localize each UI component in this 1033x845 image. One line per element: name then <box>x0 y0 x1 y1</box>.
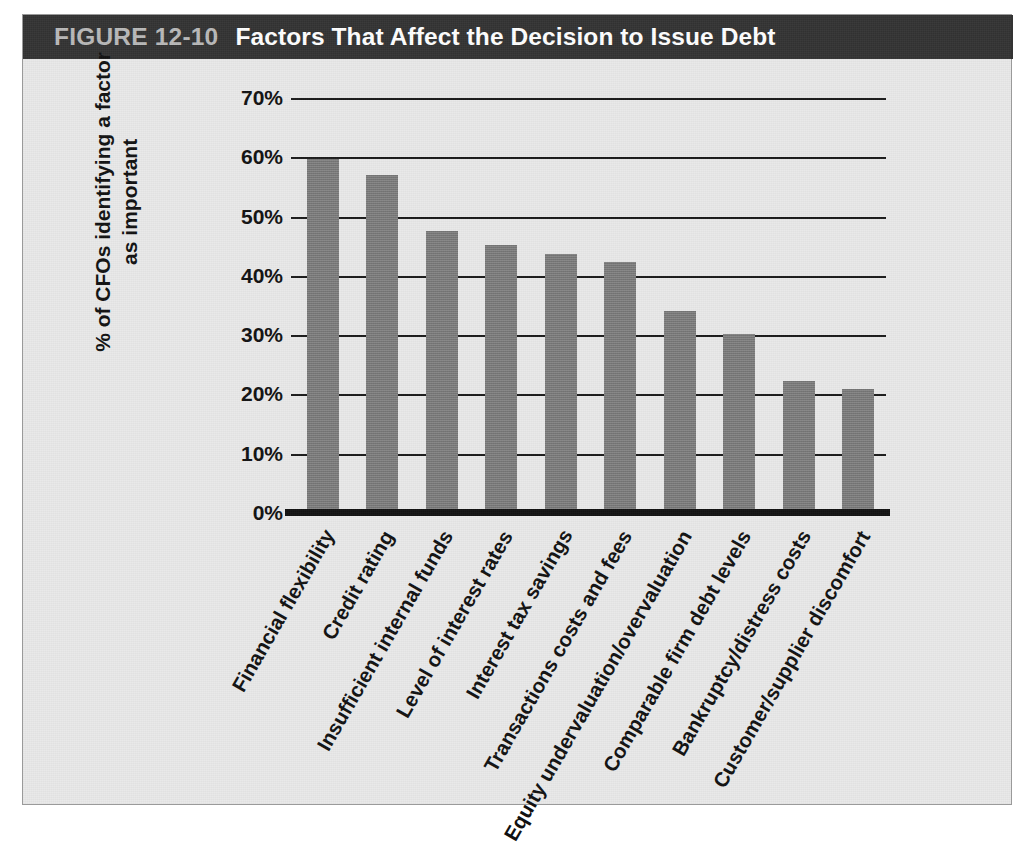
bar <box>664 311 696 513</box>
bar <box>604 262 636 513</box>
y-axis-title: % of CFOs identifying a factor as import… <box>90 52 144 352</box>
bar <box>842 389 874 514</box>
y-axis-title-line2: as important <box>117 52 144 352</box>
y-tick-label: 40% <box>203 264 283 288</box>
y-axis-title-line1: % of CFOs identifying a factor <box>90 52 117 352</box>
y-tick-label: 10% <box>203 442 283 466</box>
figure-title-label: Factors That Affect the Decision to Issu… <box>235 23 775 51</box>
bar <box>545 254 577 513</box>
x-tick-label: Interest tax savings <box>461 526 577 704</box>
y-tick-label: 70% <box>203 86 283 110</box>
y-tick-label: 0% <box>203 501 283 525</box>
y-tick-label: 20% <box>203 382 283 406</box>
bar <box>426 231 458 513</box>
figure-container: FIGURE 12-10 Factors That Affect the Dec… <box>22 14 1012 805</box>
bar <box>485 245 517 513</box>
bar-series <box>291 98 886 513</box>
bar <box>783 381 815 513</box>
y-axis-ticks: 70%60%50%40%30%20%10%0% <box>191 98 283 513</box>
y-tick-label: 50% <box>203 205 283 229</box>
figure-number-label: FIGURE 12-10 <box>54 23 218 51</box>
y-tick-label: 60% <box>203 145 283 169</box>
bar <box>307 159 339 513</box>
x-axis-baseline <box>285 509 890 516</box>
figure-title-bar: FIGURE 12-10 Factors That Affect the Dec… <box>23 15 1013 59</box>
x-axis-ticks: Financial flexibilityCredit ratingInsuff… <box>291 520 1033 800</box>
bar <box>366 175 398 513</box>
y-tick-label: 30% <box>203 323 283 347</box>
bar <box>723 334 755 513</box>
x-tick-label: Financial flexibility <box>227 526 339 697</box>
